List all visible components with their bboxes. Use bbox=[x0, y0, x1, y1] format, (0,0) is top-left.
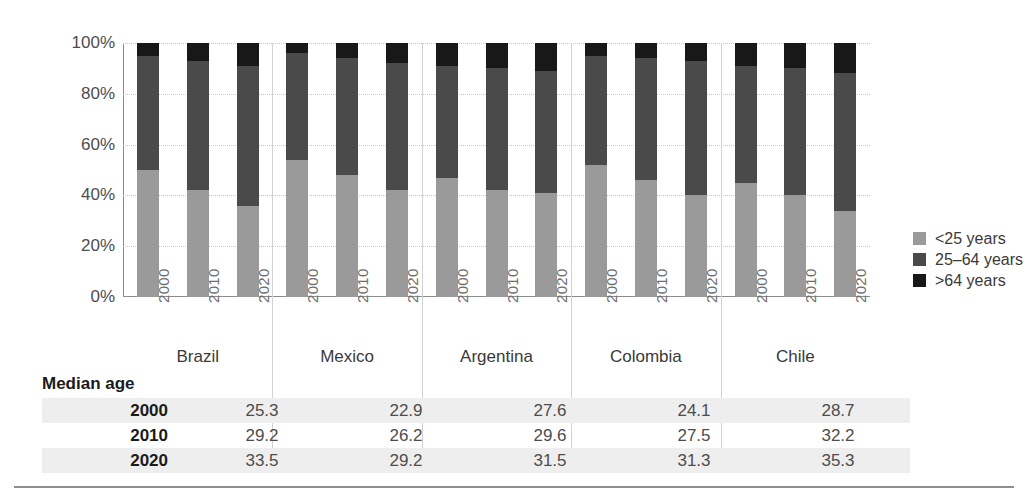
bar-segment[interactable] bbox=[784, 68, 806, 195]
x-axis-year-label: 2020 bbox=[404, 268, 421, 303]
x-axis-year-label: 2020 bbox=[852, 268, 869, 303]
x-axis-year-label: 2010 bbox=[354, 268, 371, 303]
stacked-bar[interactable] bbox=[237, 43, 259, 297]
table-cell-median-age: 26.2 bbox=[334, 426, 478, 446]
bar-segment[interactable] bbox=[137, 56, 159, 170]
age-structure-figure: 0%20%40%60%80%100% 200020102020Brazil200… bbox=[0, 0, 1028, 496]
stacked-bar[interactable] bbox=[735, 43, 757, 297]
x-axis-country-label: Argentina bbox=[460, 347, 533, 367]
bar-segment[interactable] bbox=[585, 56, 607, 165]
x-axis-year-label: 2000 bbox=[454, 268, 471, 303]
bar-segment[interactable] bbox=[635, 43, 657, 58]
table-cell-median-age: 31.5 bbox=[478, 451, 622, 471]
stacked-bar[interactable] bbox=[286, 43, 308, 297]
stacked-bar[interactable] bbox=[336, 43, 358, 297]
bar-segment[interactable] bbox=[386, 43, 408, 63]
plot-area bbox=[123, 43, 870, 297]
table-cell-median-age: 29.2 bbox=[190, 426, 334, 446]
table-cell-median-age: 24.1 bbox=[622, 401, 766, 421]
bar-segment[interactable] bbox=[535, 43, 557, 71]
stacked-bar[interactable] bbox=[386, 43, 408, 297]
y-axis-tick-label: 0% bbox=[57, 287, 115, 307]
table-cell-median-age: 31.3 bbox=[622, 451, 766, 471]
bar-segment[interactable] bbox=[187, 43, 209, 61]
y-axis-tick-label: 20% bbox=[57, 236, 115, 256]
x-axis-year-label: 2020 bbox=[553, 268, 570, 303]
bar-segment[interactable] bbox=[735, 66, 757, 183]
bar-segment[interactable] bbox=[834, 73, 856, 210]
legend-label: <25 years bbox=[935, 230, 1006, 248]
legend-item[interactable]: 25–64 years bbox=[913, 249, 1023, 270]
table-cell-median-age: 32.2 bbox=[766, 426, 910, 446]
table-row: 201029.226.229.627.532.2 bbox=[42, 423, 910, 448]
bar-segment[interactable] bbox=[486, 43, 508, 68]
x-axis-year-label: 2020 bbox=[255, 268, 272, 303]
stacked-bar[interactable] bbox=[535, 43, 557, 297]
bar-segment[interactable] bbox=[137, 43, 159, 56]
median-age-title: Median age bbox=[42, 374, 135, 394]
y-axis-tick-label: 60% bbox=[57, 135, 115, 155]
bar-segment[interactable] bbox=[237, 66, 259, 206]
stacked-bar[interactable] bbox=[834, 43, 856, 297]
legend-item[interactable]: >64 years bbox=[913, 270, 1023, 291]
x-axis-year-label: 2010 bbox=[802, 268, 819, 303]
y-axis-tick-label: 80% bbox=[57, 84, 115, 104]
bar-segment[interactable] bbox=[685, 61, 707, 196]
legend-swatch-icon bbox=[913, 253, 926, 266]
legend-label: >64 years bbox=[935, 272, 1006, 290]
stacked-bar[interactable] bbox=[585, 43, 607, 297]
bar-segment[interactable] bbox=[486, 68, 508, 190]
x-axis-year-label: 2000 bbox=[304, 268, 321, 303]
bar-segment[interactable] bbox=[286, 43, 308, 53]
stacked-bar[interactable] bbox=[137, 43, 159, 297]
stacked-bar[interactable] bbox=[635, 43, 657, 297]
bar-segment[interactable] bbox=[535, 71, 557, 193]
stacked-bar[interactable] bbox=[685, 43, 707, 297]
table-cell-median-age: 28.7 bbox=[766, 401, 910, 421]
bar-segment[interactable] bbox=[237, 43, 259, 66]
bar-segment[interactable] bbox=[336, 58, 358, 175]
x-axis-country-label: Mexico bbox=[320, 347, 374, 367]
stacked-bar[interactable] bbox=[486, 43, 508, 297]
bar-segment[interactable] bbox=[336, 43, 358, 58]
stacked-bar[interactable] bbox=[784, 43, 806, 297]
table-row: 202033.529.231.531.335.3 bbox=[42, 448, 910, 473]
table-cell-median-age: 29.2 bbox=[334, 451, 478, 471]
table-row: 200025.322.927.624.128.7 bbox=[42, 398, 910, 423]
table-cell-median-age: 33.5 bbox=[190, 451, 334, 471]
table-cell-median-age: 29.6 bbox=[478, 426, 622, 446]
table-row-year: 2000 bbox=[42, 401, 190, 421]
table-row-year: 2010 bbox=[42, 426, 190, 446]
bar-segment[interactable] bbox=[834, 43, 856, 73]
bar-segment[interactable] bbox=[286, 53, 308, 160]
x-axis-year-label: 2000 bbox=[603, 268, 620, 303]
bar-segment[interactable] bbox=[635, 58, 657, 180]
legend-swatch-icon bbox=[913, 232, 926, 245]
bar-segment[interactable] bbox=[187, 61, 209, 191]
bar-segment[interactable] bbox=[685, 43, 707, 61]
x-axis-country-label: Chile bbox=[776, 347, 815, 367]
table-cell-median-age: 22.9 bbox=[334, 401, 478, 421]
table-cell-median-age: 27.6 bbox=[478, 401, 622, 421]
x-axis-year-label: 2000 bbox=[753, 268, 770, 303]
table-cell-median-age: 27.5 bbox=[622, 426, 766, 446]
bottom-divider bbox=[14, 486, 1014, 488]
x-axis-year-label: 2010 bbox=[504, 268, 521, 303]
table-cell-median-age: 35.3 bbox=[766, 451, 910, 471]
table-row-year: 2020 bbox=[42, 451, 190, 471]
x-axis-country-label: Brazil bbox=[176, 347, 219, 367]
bar-segment[interactable] bbox=[735, 43, 757, 66]
bar-segment[interactable] bbox=[784, 43, 806, 68]
bar-segment[interactable] bbox=[436, 66, 458, 178]
y-axis-tick-label: 40% bbox=[57, 185, 115, 205]
bar-segment[interactable] bbox=[585, 43, 607, 56]
stacked-bar[interactable] bbox=[436, 43, 458, 297]
bar-segment[interactable] bbox=[436, 43, 458, 66]
bar-segment[interactable] bbox=[386, 63, 408, 190]
table-cell-median-age: 25.3 bbox=[190, 401, 334, 421]
x-axis-year-label: 2010 bbox=[653, 268, 670, 303]
legend-label: 25–64 years bbox=[935, 251, 1023, 269]
legend-item[interactable]: <25 years bbox=[913, 228, 1023, 249]
x-axis-year-label: 2020 bbox=[703, 268, 720, 303]
stacked-bar[interactable] bbox=[187, 43, 209, 297]
